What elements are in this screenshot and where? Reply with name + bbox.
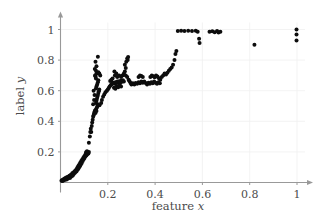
y-axis-arrow: [58, 12, 63, 18]
data-point: [218, 30, 222, 34]
data-point: [88, 135, 92, 139]
data-point: [91, 102, 95, 106]
data-point: [96, 55, 100, 59]
x-tick-label-0: 0.2: [99, 189, 117, 200]
y-tick-label-0: 0.2: [0, 146, 55, 157]
axis-variable-symbol: y: [13, 77, 27, 84]
data-point: [112, 69, 116, 73]
data-point: [85, 149, 89, 153]
data-point: [92, 89, 96, 93]
data-point: [158, 81, 162, 85]
y-axis-title: label y: [15, 77, 27, 116]
scatter-plot-figure: 0.20.40.60.810.20.40.60.81 feature x lab…: [0, 0, 316, 221]
data-point: [98, 73, 102, 77]
data-point: [295, 28, 299, 32]
data-point: [172, 58, 176, 62]
data-point: [196, 30, 200, 34]
data-point: [141, 75, 145, 79]
x-tick-label-1: 0.4: [146, 189, 164, 200]
data-point: [93, 93, 97, 97]
x-axis-title: feature x: [152, 201, 204, 213]
y-tick-label-1: 0.4: [0, 116, 55, 127]
x-tick-label-3: 0.8: [241, 189, 259, 200]
data-point: [171, 63, 175, 67]
data-point: [124, 66, 128, 70]
data-point: [252, 43, 256, 47]
data-point: [295, 39, 299, 43]
data-point: [92, 98, 96, 102]
axis-variable-symbol: x: [198, 199, 205, 213]
y-tick-label-2: 0.6: [0, 85, 55, 96]
data-point: [197, 37, 201, 41]
x-tick-label-2: 0.6: [194, 189, 212, 200]
data-point: [94, 64, 98, 68]
data-point: [87, 141, 91, 145]
data-point-group: [59, 28, 298, 183]
data-point: [198, 41, 202, 45]
data-point: [90, 124, 94, 128]
data-point: [126, 58, 130, 62]
x-axis-arrow: [307, 180, 313, 185]
data-point: [295, 32, 299, 36]
data-point: [94, 109, 98, 113]
data-point: [182, 29, 186, 33]
y-tick-label-4: 1: [0, 24, 55, 35]
data-point: [123, 69, 127, 73]
y-tick-label-3: 0.8: [0, 55, 55, 66]
data-point: [174, 49, 178, 53]
x-tick-label-4: 1: [294, 189, 301, 200]
data-point: [89, 130, 93, 134]
data-point: [94, 60, 98, 64]
data-point: [119, 84, 123, 88]
data-point: [122, 80, 126, 84]
data-point: [190, 29, 194, 33]
data-point: [186, 29, 190, 33]
